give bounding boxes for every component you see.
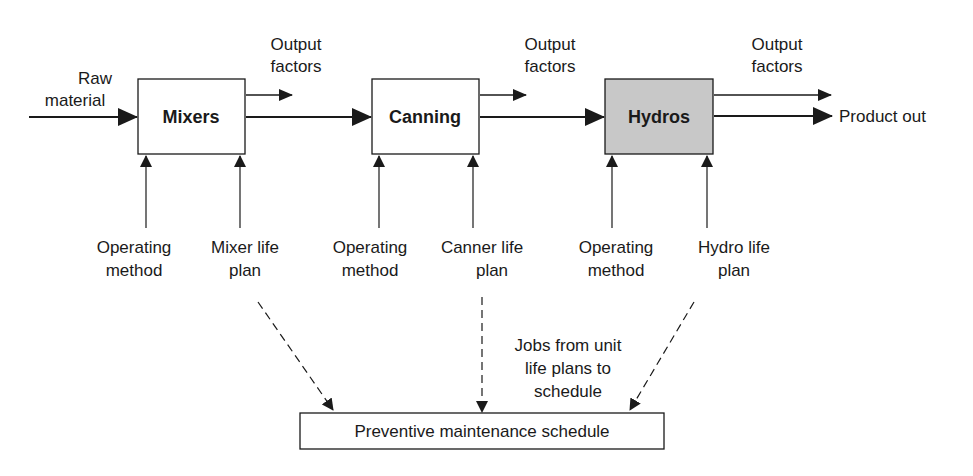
hydros-output-label-2: factors xyxy=(751,57,802,76)
product-out-label: Product out xyxy=(839,107,926,126)
hydro-plan-to-schedule-arrow xyxy=(630,302,694,410)
mixers-life-plan-label-1: Mixer life xyxy=(211,238,279,257)
canning-operating-label-2: method xyxy=(342,261,399,280)
canning-life-plan-label-1: Canner life xyxy=(441,238,523,257)
maintenance-schedule: Preventive maintenance schedule xyxy=(300,413,664,449)
hydros-operating-label-1: Operating xyxy=(579,238,654,257)
unit-canning: Canning Output factors Operating method … xyxy=(333,35,576,280)
raw-material-label-1: Raw xyxy=(78,69,113,88)
hydros-output-label-1: Output xyxy=(751,35,802,54)
jobs-note-line-3: schedule xyxy=(534,382,602,401)
raw-material-input: Raw material xyxy=(29,69,137,117)
canning-operating-label-1: Operating xyxy=(333,238,408,257)
canning-output-label-1: Output xyxy=(524,35,575,54)
jobs-note-line-1: Jobs from unit xyxy=(515,336,622,355)
mixers-output-label-1: Output xyxy=(270,35,321,54)
unit-mixers: Mixers Output factors Operating method M… xyxy=(97,35,322,280)
canning-label: Canning xyxy=(389,107,461,127)
unit-hydros: Hydros Output factors Operating method H… xyxy=(579,35,831,280)
canning-output-label-2: factors xyxy=(524,57,575,76)
mixers-life-plan-label-2: plan xyxy=(229,261,261,280)
mixers-output-label-2: factors xyxy=(270,57,321,76)
mixers-operating-label-2: method xyxy=(106,261,163,280)
jobs-note-line-2: life plans to xyxy=(525,359,611,378)
maintenance-flow-diagram: Raw material Mixers Output factors Opera… xyxy=(0,0,973,476)
hydros-label: Hydros xyxy=(628,107,690,127)
hydros-operating-label-2: method xyxy=(588,261,645,280)
hydros-life-plan-label-2: plan xyxy=(718,261,750,280)
hydros-life-plan-label-1: Hydro life xyxy=(698,238,770,257)
mixers-label: Mixers xyxy=(162,107,219,127)
canning-life-plan-label-2: plan xyxy=(476,261,508,280)
mixer-plan-to-schedule-arrow xyxy=(258,302,333,410)
raw-material-label-2: material xyxy=(45,91,105,110)
schedule-label: Preventive maintenance schedule xyxy=(354,422,609,441)
mixers-operating-label-1: Operating xyxy=(97,238,172,257)
